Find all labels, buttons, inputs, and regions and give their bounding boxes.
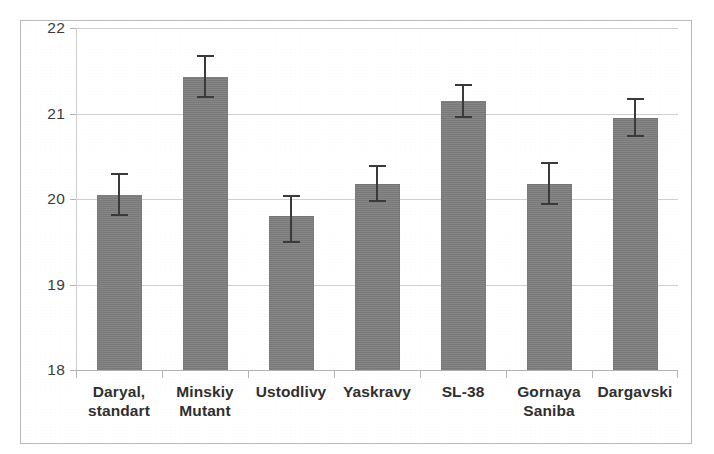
error-bar-cap-top [283, 195, 300, 197]
error-bar-cap-top [541, 162, 558, 164]
error-bar-stem [376, 165, 378, 203]
error-bar-cap-top [369, 165, 386, 167]
y-tick-mark-22 [70, 28, 76, 29]
y-tick-label-22: 22 [47, 19, 65, 37]
error-bar [365, 165, 389, 203]
error-bar-cap-top [627, 98, 644, 100]
category-label: Gornaya Saniba [506, 382, 592, 420]
category-label: Dargavski [592, 382, 678, 401]
error-bar [279, 195, 303, 244]
error-bar-cap-bottom [111, 214, 128, 216]
category-tick [592, 370, 593, 378]
error-bar-stem [634, 98, 636, 137]
category-axis: Daryal, standartMinskiy MutantUstodlivyY… [76, 370, 678, 440]
error-bar-cap-top [455, 84, 472, 86]
category-label: Daryal, standart [76, 382, 162, 420]
y-tick-mark-21 [70, 114, 76, 115]
error-bar-cap-bottom [541, 203, 558, 205]
bar [613, 118, 658, 370]
category-tick [162, 370, 163, 378]
error-bar-cap-bottom [197, 96, 214, 98]
error-bar-stem [462, 84, 464, 118]
bar [355, 184, 400, 370]
error-bar-cap-bottom [455, 116, 472, 118]
error-bar-cap-bottom [283, 241, 300, 243]
error-bar-cap-bottom [369, 200, 386, 202]
error-bar-stem [548, 162, 550, 205]
error-bar [451, 84, 475, 118]
category-tick [420, 370, 421, 378]
y-tick-label-21: 21 [47, 105, 65, 123]
error-bar [107, 173, 131, 216]
y-tick-label-20: 20 [47, 190, 65, 208]
error-bar-stem [204, 55, 206, 98]
category-tick [76, 370, 77, 378]
error-bar [193, 55, 217, 98]
category-label: Minskiy Mutant [162, 382, 248, 420]
category-tick [248, 370, 249, 378]
error-bar-cap-top [197, 55, 214, 57]
error-bar-stem [290, 195, 292, 244]
error-bar-cap-top [111, 173, 128, 175]
y-tick-mark-20 [70, 199, 76, 200]
error-bar-cap-bottom [627, 135, 644, 137]
category-tick [506, 370, 507, 378]
y-tick-label-18: 18 [47, 361, 65, 379]
bar [97, 195, 142, 370]
gridline-21 [76, 114, 678, 115]
bar [527, 184, 572, 370]
category-tick [334, 370, 335, 378]
plot-area: 1819202122 [76, 28, 678, 370]
y-tick-mark-19 [70, 285, 76, 286]
chart-frame: 1819202122 Daryal, standartMinskiy Mutan… [20, 20, 692, 444]
error-bar [537, 162, 561, 205]
category-label: SL-38 [420, 382, 506, 401]
error-bar-stem [118, 173, 120, 216]
category-label: Yaskravy [334, 382, 420, 401]
category-tick [677, 370, 678, 378]
gridline-22 [76, 28, 678, 29]
bar [183, 77, 228, 370]
category-label: Ustodlivy [248, 382, 334, 401]
bar [441, 101, 486, 370]
y-tick-label-19: 19 [47, 276, 65, 294]
error-bar [623, 98, 647, 137]
